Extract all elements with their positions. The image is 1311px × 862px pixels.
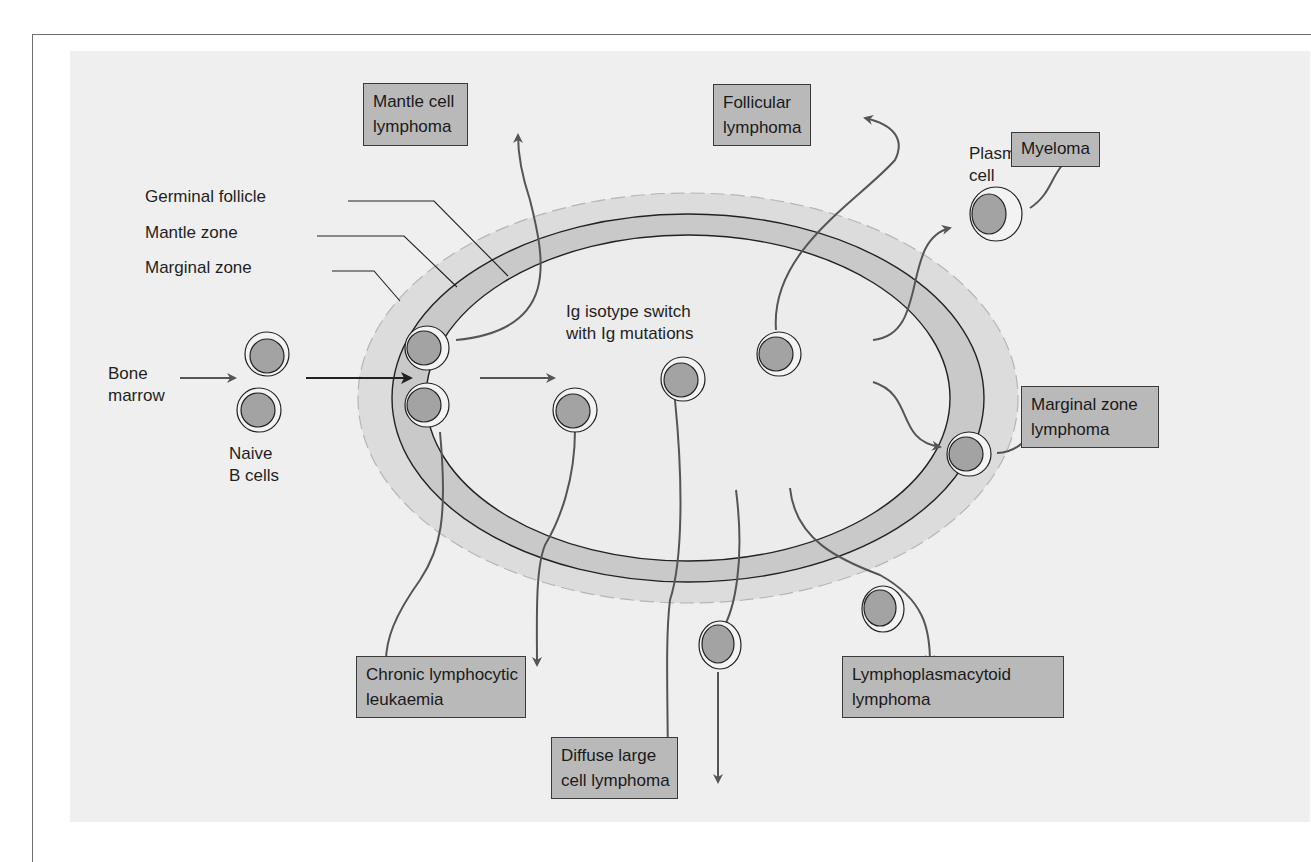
plasma-line2: cell (969, 166, 995, 185)
bone-marrow-line1: Bone (108, 364, 148, 383)
cll-line2: leukaemia (366, 687, 525, 712)
marginal-zone-lymphoma-box: Marginal zone lymphoma (1021, 386, 1159, 448)
follicular-line2: lymphoma (723, 115, 810, 140)
marginal-zone-label: Marginal zone (145, 257, 252, 279)
marginal-zone-lymphoma-line1: Marginal zone (1031, 392, 1158, 417)
mantle-cell-2 (405, 383, 449, 427)
mantle-cell-1 (405, 326, 449, 370)
mantle-cell-line1: Mantle cell (373, 89, 467, 114)
germinal-follicle-label: Germinal follicle (145, 186, 266, 208)
dlbcl-line1: Diffuse large (561, 743, 677, 768)
mantle-zone-label: Mantle zone (145, 222, 238, 244)
follicular-line1: Follicular (723, 90, 810, 115)
follicle-cell-1 (553, 388, 597, 432)
isotype-switch-label: Ig isotype switch with Ig mutations (566, 301, 694, 345)
mantle-cell-lymphoma-box: Mantle cell lymphoma (363, 83, 468, 146)
naive-b-cell-1 (245, 332, 289, 376)
bone-marrow-line2: marrow (108, 386, 165, 405)
diffuse-large-cell-lymphoma-box: Diffuse large cell lymphoma (551, 737, 678, 799)
naive-b-cell-2 (237, 388, 281, 432)
follicular-lymphoma-box: Follicular lymphoma (713, 84, 811, 146)
myeloma-box: Myeloma (1011, 132, 1100, 167)
lymphoplasmacytoid-cell (862, 586, 904, 632)
switch-line2: with Ig mutations (566, 324, 694, 343)
bone-marrow-label: Bone marrow (108, 363, 165, 407)
lymphoplasmacytoid-line1: Lymphoplasmacytoid (852, 662, 1063, 687)
follicle-cell-2 (661, 357, 705, 401)
marginal-zone-lymphoma-line2: lymphoma (1031, 417, 1158, 442)
follicle-cell-3 (757, 332, 801, 376)
naive-line1: Naive (229, 444, 272, 463)
dlbcl-line2: cell lymphoma (561, 768, 677, 793)
mantle-cell-line2: lymphoma (373, 114, 467, 139)
switch-line1: Ig isotype switch (566, 302, 691, 321)
plasma-cell (970, 187, 1022, 241)
large-cell (699, 621, 741, 669)
lymphoplasmacytoid-line2: lymphoma (852, 687, 1063, 712)
naive-line2: B cells (229, 466, 279, 485)
cll-line1: Chronic lymphocytic (366, 662, 525, 687)
marginal-zone-cell (947, 432, 991, 476)
chronic-lymphocytic-leukaemia-box: Chronic lymphocytic leukaemia (356, 656, 526, 718)
lymphoplasmacytoid-lymphoma-box: Lymphoplasmacytoid lymphoma (842, 656, 1064, 718)
myeloma-line1: Myeloma (1021, 136, 1099, 161)
naive-b-cells-label: Naive B cells (229, 443, 279, 487)
